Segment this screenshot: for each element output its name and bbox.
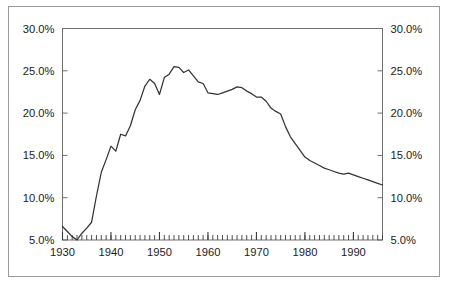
y-axis-left-tick-label: 5.0%	[29, 234, 55, 246]
x-axis-tick-label: 1970	[244, 246, 269, 258]
y-axis-left-labels: 30.0%25.0%20.0%15.0%10.0%5.0%	[23, 23, 55, 247]
x-axis-tick-label: 1930	[50, 246, 75, 258]
y-axis-right-tick-label: 15.0%	[391, 149, 423, 161]
y-axis-right-tick-label: 25.0%	[391, 65, 423, 77]
x-axis-labels: 1930194019501960197019801990	[50, 246, 366, 258]
line-chart: 30.0%25.0%20.0%15.0%10.0%5.0% 30.0%25.0%…	[0, 0, 449, 286]
x-axis-tick-label: 1960	[196, 246, 221, 258]
y-axis-left-tick-label: 20.0%	[23, 107, 55, 119]
plot-area-border	[63, 29, 383, 241]
y-axis-left-tick-label: 30.0%	[23, 23, 55, 35]
x-axis-tick-label: 1980	[292, 246, 317, 258]
y-axis-right-tick-label: 30.0%	[391, 23, 423, 35]
y-axis-left-tick-label: 10.0%	[23, 192, 55, 204]
y-axis-right-labels: 30.0%25.0%20.0%15.0%10.0%5.0%	[391, 23, 423, 247]
y-axis-left-tick-label: 15.0%	[23, 149, 55, 161]
y-axis-left-tick-label: 25.0%	[23, 65, 55, 77]
y-axis-right-tick-label: 10.0%	[391, 192, 423, 204]
x-axis-tick-label: 1990	[341, 246, 366, 258]
y-axis-right-tick-label: 20.0%	[391, 107, 423, 119]
chart-figure: 30.0%25.0%20.0%15.0%10.0%5.0% 30.0%25.0%…	[0, 0, 449, 286]
y-axis-right-tick-label: 5.0%	[391, 234, 417, 246]
x-axis-tick-label: 1940	[99, 246, 124, 258]
x-axis-tick-label: 1950	[147, 246, 172, 258]
